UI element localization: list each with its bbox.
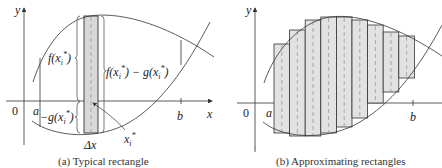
- a-label-a: a: [33, 105, 39, 117]
- b-label-a: b: [177, 110, 183, 122]
- b-label-b: b: [410, 111, 416, 123]
- f-xi-label: f(xi*): [48, 51, 71, 67]
- figure-b: [237, 8, 442, 152]
- y-axis-label-b: y: [246, 4, 251, 16]
- origin-label-b: 0: [243, 107, 249, 119]
- f-minus-g-label: f(xi*) − g(xi*): [106, 65, 169, 81]
- caption-b: (b) Approximating rectangles: [276, 156, 406, 167]
- figure-canvas: [0, 0, 442, 168]
- y-axis-label-a: y: [15, 4, 20, 16]
- neg-g-xi-label: −g(xi*): [40, 110, 74, 126]
- x-axis-label-a: x: [207, 108, 212, 120]
- caption-a: (a) Typical rectangle: [58, 156, 149, 167]
- xi-star-label: xi*: [124, 132, 136, 148]
- origin-label-a: 0: [12, 105, 18, 117]
- a-label-b: a: [266, 107, 272, 119]
- delta-x-label: Δx: [84, 139, 96, 151]
